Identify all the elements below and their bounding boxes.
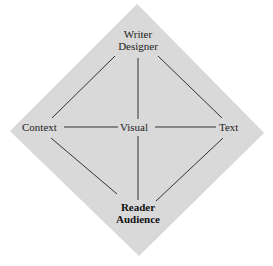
node-writer-designer: Writer Designer (112, 28, 164, 52)
diagram-canvas: Writer Designer Context Visual Text Read… (0, 0, 273, 266)
node-reader-audience: Reader Audience (112, 201, 164, 225)
node-writer-label: Writer (112, 28, 164, 40)
node-visual-label: Visual (120, 121, 148, 133)
node-context-label: Context (22, 121, 57, 133)
node-reader-label: Reader (112, 201, 164, 213)
node-designer-label: Designer (112, 40, 164, 52)
node-audience-label: Audience (112, 213, 164, 225)
node-text-label: Text (219, 121, 238, 133)
